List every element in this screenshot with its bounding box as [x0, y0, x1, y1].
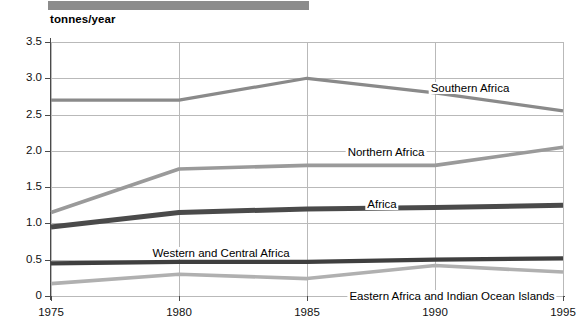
- y-tick-label: 1.5: [8, 180, 42, 192]
- y-tick-label: 2.5: [8, 108, 42, 120]
- series-label: Eastern Africa and Indian Ocean Islands: [347, 290, 556, 302]
- chart-page: tonnes/year 00.51.01.52.02.53.03.5 19751…: [0, 0, 579, 336]
- series-label: Africa: [365, 198, 398, 210]
- x-tick-label: 1995: [533, 306, 579, 318]
- y-tick-label: 3.5: [8, 35, 42, 47]
- y-tick-label: 0: [8, 289, 42, 301]
- x-tick-1995: [563, 296, 564, 301]
- series-line: [51, 205, 563, 227]
- series-lines: [51, 42, 563, 296]
- x-tick-label: 1975: [21, 306, 81, 318]
- x-tick-1975: [51, 296, 52, 301]
- plot-area: [51, 42, 563, 296]
- series-label: Northern Africa: [346, 146, 427, 158]
- y-tick-label: 3.0: [8, 71, 42, 83]
- x-tick-label: 1980: [149, 306, 209, 318]
- x-tick-label: 1990: [405, 306, 465, 318]
- x-tick-label: 1985: [277, 306, 337, 318]
- title-band-redacted: [48, 1, 309, 10]
- gridline-x-1995: [563, 42, 564, 296]
- y-tick-label: 2.0: [8, 144, 42, 156]
- y-tick-label: 0.5: [8, 253, 42, 265]
- y-axis-unit-label: tonnes/year: [50, 13, 116, 25]
- x-tick-1985: [307, 296, 308, 301]
- series-line: [51, 147, 563, 212]
- series-label: Western and Central Africa: [150, 247, 291, 259]
- y-tick-label: 1.0: [8, 216, 42, 228]
- series-line: [51, 258, 563, 263]
- series-line: [51, 266, 563, 284]
- series-label: Southern Africa: [429, 82, 512, 94]
- x-tick-1980: [179, 296, 180, 301]
